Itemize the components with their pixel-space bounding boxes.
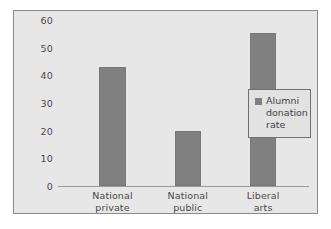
x-axis-label-national-private: National private — [92, 190, 132, 213]
y-axis-tick-30: 30 — [41, 97, 54, 108]
legend-swatch-icon — [255, 98, 262, 105]
chart-figure: 60 50 40 30 20 10 0 National private Nat… — [13, 10, 318, 214]
y-axis-tick-20: 20 — [41, 125, 54, 136]
y-axis-tick-40: 40 — [41, 70, 54, 81]
bar-national-public — [175, 131, 201, 186]
x-axis-label-liberal-arts: Liberal arts — [240, 190, 286, 213]
y-axis-tick-50: 50 — [41, 42, 54, 53]
x-axis-line — [58, 186, 309, 187]
y-axis-tick-60: 60 — [41, 15, 54, 26]
y-axis-tick-0: 0 — [47, 180, 53, 191]
x-axis-label-national-public: National public — [168, 190, 208, 213]
bar-national-private — [99, 67, 125, 186]
chart-legend: Alumni donation rate — [248, 89, 311, 138]
legend-entry-label: Alumni donation rate — [266, 95, 308, 131]
y-axis-tick-10: 10 — [41, 153, 54, 164]
legend-entry: Alumni donation rate — [255, 95, 304, 131]
